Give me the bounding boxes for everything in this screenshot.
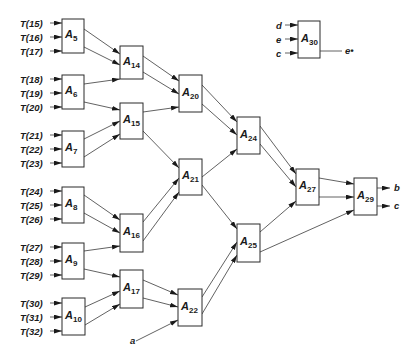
- edge-arrow: [319, 178, 354, 184]
- edge-arrow: [143, 280, 178, 295]
- input-label: T(29): [20, 270, 43, 281]
- input-label: T(18): [20, 74, 43, 85]
- block-a6: A6: [62, 75, 84, 109]
- input-label: T(20): [20, 102, 43, 113]
- block-a5: A5: [62, 19, 84, 53]
- edge-arrow: [143, 298, 178, 307]
- blocks-layer: A5A6A7A8A9A10A14A15A16A17A20A21A22A24A25…: [62, 19, 377, 335]
- input-label: T(27): [20, 242, 43, 253]
- block-a8: A8: [62, 187, 84, 223]
- edge-arrow: [84, 121, 120, 139]
- input-label: e: [276, 34, 282, 45]
- block-a9: A9: [62, 243, 84, 279]
- input-label: T(25): [20, 200, 43, 211]
- edge-arrow: [202, 104, 237, 135]
- input-label: T(26): [20, 214, 43, 225]
- input-label: T(23): [20, 158, 43, 169]
- block-a24: A24: [237, 117, 260, 154]
- input-label: d: [276, 20, 282, 31]
- diagram-svg: T(15)T(16)T(17)T(18)T(19)T(20)T(21)T(22)…: [0, 0, 415, 359]
- edge-arrow: [202, 185, 237, 229]
- inputs-layer: T(15)T(16)T(17)T(18)T(19)T(20)T(21)T(22)…: [20, 18, 298, 337]
- edge-arrow: [136, 320, 178, 341]
- input-label: T(32): [20, 326, 43, 337]
- edge-arrow: [260, 210, 354, 252]
- input-label: T(28): [20, 256, 43, 267]
- edge-arrow: [84, 246, 120, 251]
- edge-arrow: [143, 107, 179, 112]
- edge-arrow: [84, 79, 120, 84]
- input-label: T(15): [20, 18, 43, 29]
- block-a27: A27: [296, 169, 319, 205]
- edge-arrow: [143, 56, 179, 81]
- block-a17: A17: [120, 270, 143, 308]
- edge-arrow: [84, 47, 120, 65]
- edge-arrow: [202, 255, 237, 314]
- network-diagram: T(15)T(16)T(17)T(18)T(19)T(20)T(21)T(22)…: [0, 0, 415, 359]
- edge-arrow: [84, 102, 120, 110]
- edge-arrow: [84, 29, 120, 54]
- block-a7: A7: [62, 131, 84, 167]
- block-a15: A15: [120, 103, 143, 139]
- block-a22: A22: [178, 289, 202, 326]
- input-label: T(24): [20, 186, 43, 197]
- input-label: T(21): [20, 130, 43, 141]
- output-label-e: e•: [345, 45, 354, 56]
- edge-arrow: [260, 201, 296, 232]
- block-a30: A30: [298, 21, 320, 58]
- input-label: T(30): [20, 298, 43, 309]
- edge-arrow: [202, 242, 237, 297]
- input-label: T(22): [20, 144, 43, 155]
- edge-arrow: [85, 304, 120, 325]
- edge-arrow: [202, 85, 237, 122]
- edge-arrow: [143, 192, 179, 241]
- edge-arrow: [202, 149, 237, 177]
- edge-arrow: [85, 291, 120, 307]
- block-a25: A25: [237, 224, 260, 262]
- input-label: T(17): [20, 46, 43, 57]
- output-label: b: [394, 182, 400, 193]
- block-a29: A29: [354, 178, 377, 215]
- block-a14: A14: [120, 46, 143, 79]
- input-label: T(16): [20, 32, 43, 43]
- output-label: c: [394, 200, 400, 211]
- input-label: T(31): [20, 312, 43, 323]
- input-label: T(19): [20, 88, 43, 99]
- block-a16: A16: [120, 214, 143, 252]
- input-label-a: a: [130, 335, 135, 346]
- edge-arrow: [84, 134, 120, 157]
- edge-arrow: [84, 269, 120, 277]
- block-a20: A20: [179, 75, 202, 112]
- edge-arrow: [143, 131, 179, 168]
- edge-arrow: [143, 72, 179, 94]
- block-a21: A21: [179, 159, 202, 195]
- input-label: c: [276, 48, 282, 59]
- block-a10: A10: [62, 298, 85, 335]
